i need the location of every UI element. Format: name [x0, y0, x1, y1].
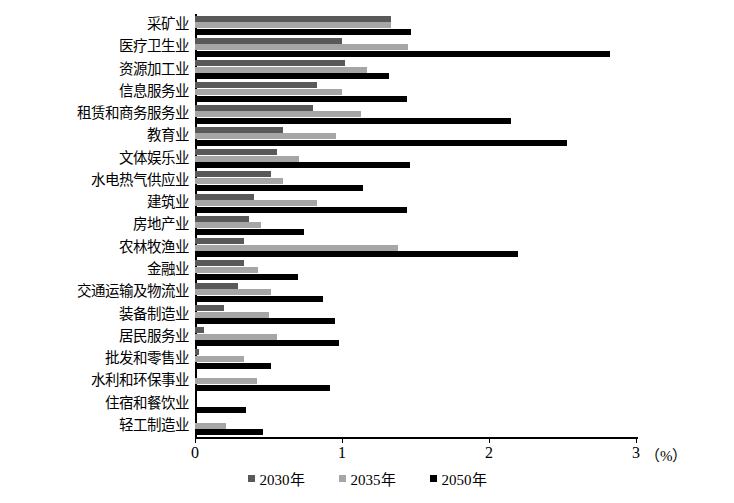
category-label: 批发和零售业	[0, 351, 189, 366]
bar-2035年-采矿业	[195, 22, 391, 28]
chart-row: 建筑业	[0, 192, 734, 214]
x-axis-unit-label: （%）	[645, 444, 688, 465]
bar-2030年-采矿业	[195, 16, 391, 22]
category-label: 资源加工业	[0, 62, 189, 77]
bar-2050年-租赁和商务服务业	[195, 118, 511, 124]
chart-row: 批发和零售业	[0, 348, 734, 370]
category-label: 房地产业	[0, 217, 189, 232]
bar-2030年-水电热气供应业	[195, 171, 271, 177]
chart-row: 住宿和餐饮业	[0, 392, 734, 414]
bar-2050年-金融业	[195, 274, 298, 280]
chart-row: 资源加工业	[0, 59, 734, 81]
bar-2030年-居民服务业	[195, 327, 204, 333]
bar-2035年-交通运输及物流业	[195, 289, 271, 295]
chart-row: 采矿业	[0, 14, 734, 36]
bar-2050年-装备制造业	[195, 318, 335, 324]
bar-2050年-批发和零售业	[195, 363, 271, 369]
bar-2035年-居民服务业	[195, 334, 277, 340]
x-tick-label-3: 3	[632, 444, 640, 462]
bar-2050年-房地产业	[195, 229, 304, 235]
bar-2035年-教育业	[195, 133, 336, 139]
x-tick-label-2: 2	[485, 444, 493, 462]
bar-2035年-建筑业	[195, 200, 317, 206]
chart-row: 居民服务业	[0, 326, 734, 348]
bar-2035年-水利和环保事业	[195, 378, 257, 384]
chart-row: 农林牧渔业	[0, 237, 734, 259]
legend-swatch-icon	[339, 475, 346, 482]
bar-2050年-资源加工业	[195, 73, 389, 79]
bar-2035年-文体娱乐业	[195, 156, 299, 162]
legend-item-2035年[interactable]: 2035年	[339, 468, 396, 489]
category-label: 装备制造业	[0, 307, 189, 322]
category-label: 采矿业	[0, 17, 189, 32]
chart-row: 医疗卫生业	[0, 36, 734, 58]
bar-2035年-租赁和商务服务业	[195, 111, 361, 117]
legend-label: 2030年	[260, 468, 305, 489]
bar-2035年-批发和零售业	[195, 356, 244, 362]
chart-row: 水电热气供应业	[0, 170, 734, 192]
category-label: 租赁和商务服务业	[0, 106, 189, 121]
legend-item-2050年[interactable]: 2050年	[430, 468, 487, 489]
bar-2035年-装备制造业	[195, 312, 269, 318]
category-label: 轻工制造业	[0, 418, 189, 433]
bar-2050年-轻工制造业	[195, 429, 263, 435]
bar-2050年-水利和环保事业	[195, 385, 330, 391]
bar-2050年-建筑业	[195, 207, 407, 213]
bar-2050年-水电热气供应业	[195, 185, 363, 191]
bar-2050年-信息服务业	[195, 96, 407, 102]
bar-2030年-农林牧渔业	[195, 238, 244, 244]
category-label: 医疗卫生业	[0, 39, 189, 54]
bar-2050年-采矿业	[195, 29, 411, 35]
category-label: 水电热气供应业	[0, 173, 189, 188]
bar-2030年-资源加工业	[195, 60, 345, 66]
chart-row: 水利和环保事业	[0, 370, 734, 392]
bar-2030年-装备制造业	[195, 305, 224, 311]
bar-2050年-教育业	[195, 140, 567, 146]
chart-row: 租赁和商务服务业	[0, 103, 734, 125]
category-label: 文体娱乐业	[0, 151, 189, 166]
chart-row: 房地产业	[0, 214, 734, 236]
category-label: 建筑业	[0, 195, 189, 210]
bar-2035年-轻工制造业	[195, 423, 226, 429]
chart-row: 金融业	[0, 259, 734, 281]
bar-2035年-房地产业	[195, 222, 261, 228]
bar-2035年-信息服务业	[195, 89, 342, 95]
category-label: 教育业	[0, 128, 189, 143]
bar-2035年-水电热气供应业	[195, 178, 283, 184]
bar-2050年-交通运输及物流业	[195, 296, 323, 302]
x-tick-label-1: 1	[338, 444, 346, 462]
chart-row: 教育业	[0, 125, 734, 147]
x-tick-label-0: 0	[191, 444, 199, 462]
bar-2030年-信息服务业	[195, 82, 317, 88]
bar-2035年-资源加工业	[195, 67, 367, 73]
bar-2050年-文体娱乐业	[195, 162, 410, 168]
horizontal-bar-chart: 0123 （%） 采矿业医疗卫生业资源加工业信息服务业租赁和商务服务业教育业文体…	[0, 0, 734, 503]
category-label: 信息服务业	[0, 84, 189, 99]
bar-2035年-医疗卫生业	[195, 44, 408, 50]
chart-row: 信息服务业	[0, 81, 734, 103]
chart-row: 文体娱乐业	[0, 148, 734, 170]
category-label: 水利和环保事业	[0, 373, 189, 388]
bar-2030年-文体娱乐业	[195, 149, 277, 155]
chart-row: 装备制造业	[0, 303, 734, 325]
bar-2030年-金融业	[195, 260, 244, 266]
category-label: 交通运输及物流业	[0, 284, 189, 299]
bar-2030年-租赁和商务服务业	[195, 105, 313, 111]
bar-2030年-医疗卫生业	[195, 38, 342, 44]
bar-2035年-金融业	[195, 267, 258, 273]
category-label: 住宿和餐饮业	[0, 396, 189, 411]
category-label: 农林牧渔业	[0, 240, 189, 255]
bar-2030年-房地产业	[195, 216, 249, 222]
chart-row: 交通运输及物流业	[0, 281, 734, 303]
bar-2030年-批发和零售业	[195, 349, 199, 355]
bar-2050年-居民服务业	[195, 340, 339, 346]
category-label: 金融业	[0, 262, 189, 277]
bar-2050年-医疗卫生业	[195, 51, 610, 57]
bar-2030年-教育业	[195, 127, 283, 133]
chart-row: 轻工制造业	[0, 415, 734, 437]
chart-legend: 2030年2035年2050年	[0, 468, 734, 489]
legend-label: 2035年	[351, 468, 396, 489]
bar-2050年-住宿和餐饮业	[195, 407, 246, 413]
legend-item-2030年[interactable]: 2030年	[248, 468, 305, 489]
bar-2030年-交通运输及物流业	[195, 283, 238, 289]
